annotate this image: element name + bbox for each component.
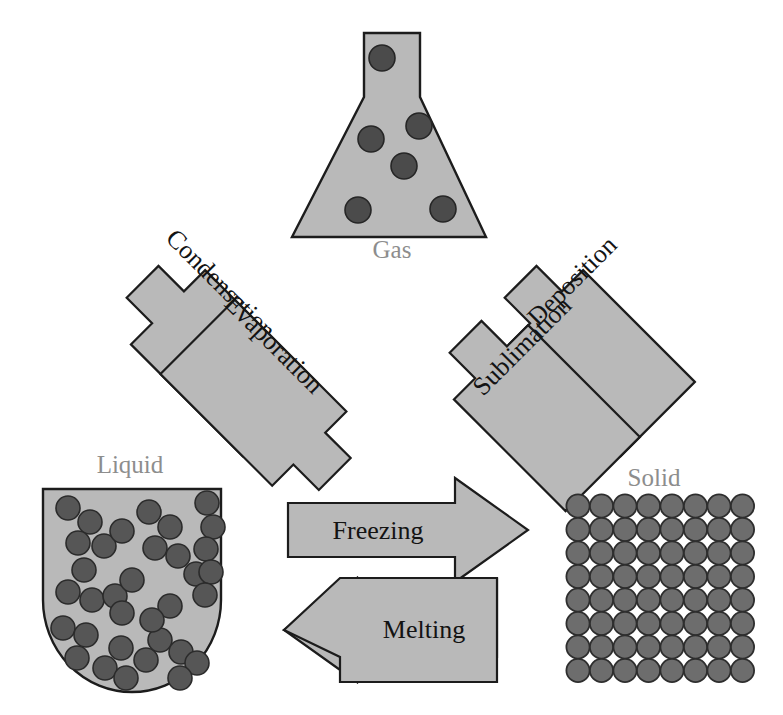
solid-particle bbox=[660, 494, 683, 517]
solid-particle bbox=[613, 518, 636, 541]
liquid-particle bbox=[201, 515, 225, 539]
solid-particle bbox=[566, 565, 589, 588]
gas-particle bbox=[345, 197, 371, 223]
solid-particle bbox=[684, 612, 707, 635]
solid-particle bbox=[590, 494, 613, 517]
solid-particle bbox=[613, 588, 636, 611]
solid-particle bbox=[731, 588, 754, 611]
liquid-particle bbox=[65, 646, 89, 670]
solid-particle bbox=[566, 518, 589, 541]
solid-particle bbox=[684, 541, 707, 564]
solid-particle bbox=[684, 494, 707, 517]
liquid-particle bbox=[120, 568, 144, 592]
solid-particle bbox=[731, 635, 754, 658]
solid-particle bbox=[684, 588, 707, 611]
solid-particle bbox=[637, 612, 660, 635]
gas-state-group: Gas bbox=[292, 33, 486, 263]
solid-particle bbox=[731, 494, 754, 517]
solid-particle bbox=[707, 635, 730, 658]
solid-particle bbox=[637, 565, 660, 588]
solid-particle bbox=[660, 541, 683, 564]
freezing-label: Freezing bbox=[333, 516, 424, 545]
solid-particle bbox=[637, 588, 660, 611]
solid-particle bbox=[707, 541, 730, 564]
solid-particle bbox=[613, 565, 636, 588]
liquid-particle bbox=[193, 583, 217, 607]
solid-particle bbox=[613, 494, 636, 517]
solid-particle bbox=[590, 612, 613, 635]
gas-particle bbox=[406, 113, 432, 139]
liquid-particle bbox=[78, 510, 102, 534]
liquid-particle bbox=[72, 558, 96, 582]
solid-particle bbox=[660, 612, 683, 635]
solid-particle bbox=[613, 612, 636, 635]
solid-particle bbox=[637, 494, 660, 517]
liquid-particle bbox=[110, 519, 134, 543]
melting-label: Melting bbox=[383, 615, 465, 644]
solid-particle bbox=[566, 588, 589, 611]
liquid-label: Liquid bbox=[97, 451, 164, 478]
solid-particle bbox=[660, 518, 683, 541]
liquid-particle bbox=[194, 537, 218, 561]
solid-particle bbox=[590, 659, 613, 682]
liquid-particle bbox=[168, 666, 192, 690]
liquid-particle bbox=[80, 588, 104, 612]
liquid-particle bbox=[51, 616, 75, 640]
solid-particle bbox=[684, 635, 707, 658]
solid-state-group: Solid bbox=[566, 464, 754, 682]
liquid-particle bbox=[158, 515, 182, 539]
solid-particle bbox=[707, 588, 730, 611]
solid-particle bbox=[566, 494, 589, 517]
liquid-particle bbox=[109, 636, 133, 660]
liquid-state-group: Liquid bbox=[43, 451, 225, 692]
solid-particle bbox=[707, 612, 730, 635]
liquid-particle bbox=[137, 500, 161, 524]
solid-particle bbox=[707, 659, 730, 682]
solid-label: Solid bbox=[628, 464, 681, 491]
liquid-particle bbox=[74, 623, 98, 647]
solid-particle bbox=[731, 612, 754, 635]
solid-particle bbox=[731, 541, 754, 564]
liquid-particle bbox=[166, 544, 190, 568]
solid-particle bbox=[590, 635, 613, 658]
solid-particle bbox=[566, 659, 589, 682]
solid-particle bbox=[707, 494, 730, 517]
solid-particle bbox=[684, 518, 707, 541]
solid-particle bbox=[590, 565, 613, 588]
liquid-particle bbox=[114, 666, 138, 690]
gas-particle bbox=[358, 126, 384, 152]
solid-particle bbox=[660, 565, 683, 588]
solid-particle bbox=[684, 659, 707, 682]
solid-particle bbox=[590, 541, 613, 564]
solid-particle bbox=[637, 518, 660, 541]
solid-lattice-icon bbox=[566, 494, 754, 682]
liquid-particle bbox=[56, 580, 80, 604]
solid-particle bbox=[660, 635, 683, 658]
solid-particle bbox=[566, 541, 589, 564]
solid-particle bbox=[660, 588, 683, 611]
liquid-particle bbox=[199, 560, 223, 584]
solid-particle bbox=[637, 635, 660, 658]
solid-particle bbox=[566, 612, 589, 635]
solid-particle bbox=[731, 659, 754, 682]
liquid-particle bbox=[56, 496, 80, 520]
liquid-particle bbox=[110, 601, 134, 625]
solid-particle bbox=[684, 565, 707, 588]
solid-particle bbox=[566, 635, 589, 658]
solid-particle bbox=[707, 565, 730, 588]
solid-particle bbox=[637, 541, 660, 564]
phase-change-diagram: Gas Condensation Evaporation Deposition … bbox=[0, 0, 783, 715]
solid-particle bbox=[613, 659, 636, 682]
solid-particle bbox=[707, 518, 730, 541]
gas-particle bbox=[391, 153, 417, 179]
gas-particle bbox=[369, 45, 395, 71]
liquid-particle bbox=[140, 608, 164, 632]
solid-particle bbox=[613, 635, 636, 658]
solid-particle bbox=[590, 518, 613, 541]
liquid-particle bbox=[134, 648, 158, 672]
liquid-particle bbox=[195, 491, 219, 515]
liquid-particle bbox=[143, 536, 167, 560]
solid-particle bbox=[590, 588, 613, 611]
liquid-particle bbox=[66, 531, 90, 555]
solid-particle bbox=[637, 659, 660, 682]
